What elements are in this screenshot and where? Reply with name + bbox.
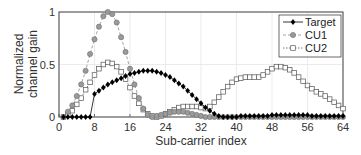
diamond-marker	[145, 68, 150, 74]
square-marker	[256, 75, 261, 80]
diamond-marker	[97, 88, 102, 94]
y-axis-label-line1: Normalized	[12, 34, 26, 95]
diamond-marker	[88, 114, 93, 120]
square-marker	[92, 73, 97, 78]
square-marker	[185, 104, 190, 109]
square-marker	[305, 83, 310, 88]
diamond-marker	[132, 70, 137, 76]
circle-marker	[87, 51, 92, 56]
circle-marker	[79, 82, 84, 87]
square-marker	[341, 106, 346, 111]
square-marker	[327, 97, 332, 102]
square-marker	[270, 66, 275, 71]
diamond-marker	[101, 85, 106, 91]
x-tick-label: 16	[124, 121, 136, 133]
square-marker	[261, 73, 266, 78]
y-tick-label: 1	[49, 6, 55, 18]
square-marker	[216, 95, 221, 100]
square-marker	[114, 64, 119, 69]
circle-marker	[92, 37, 97, 42]
circle-marker	[110, 12, 115, 17]
circle-marker	[74, 93, 79, 98]
square-marker	[225, 84, 230, 89]
diamond-marker	[181, 84, 186, 90]
diamond-marker	[70, 114, 75, 120]
circle-marker	[65, 109, 70, 114]
square-marker	[319, 92, 324, 97]
circle-marker	[290, 32, 295, 37]
circle-marker	[127, 66, 132, 71]
diamond-marker	[190, 92, 195, 98]
diamond-marker	[83, 114, 88, 120]
x-tick-label: 64	[337, 121, 349, 133]
circle-marker	[141, 106, 146, 111]
circle-marker	[70, 103, 75, 108]
square-marker	[274, 64, 279, 69]
y-tick-label: 0	[49, 111, 55, 123]
square-marker	[234, 77, 239, 82]
diamond-marker	[114, 77, 119, 83]
circle-marker	[123, 49, 128, 54]
diamond-marker	[194, 96, 199, 102]
square-marker	[83, 87, 88, 92]
square-marker	[314, 90, 319, 95]
legend-label: CU2	[305, 42, 327, 54]
square-marker	[190, 104, 195, 109]
diamond-marker	[172, 77, 177, 83]
diamond-marker	[150, 68, 155, 74]
square-marker	[181, 104, 186, 109]
square-marker	[252, 75, 257, 80]
x-tick-label: 0	[56, 121, 62, 133]
diamond-marker	[141, 68, 146, 74]
x-tick-label: 56	[301, 121, 313, 133]
square-marker	[332, 100, 337, 105]
square-marker	[310, 86, 315, 91]
x-tick-labels: 0816243240485664	[56, 121, 349, 133]
x-tick-label: 48	[266, 121, 278, 133]
square-marker	[336, 103, 341, 108]
diamond-marker	[79, 114, 84, 120]
diamond-marker	[185, 88, 190, 94]
circle-marker	[119, 35, 124, 40]
line-chart: 0816243240485664 00.51 Sub-carrier index…	[0, 0, 361, 155]
square-marker	[212, 100, 217, 105]
square-marker	[265, 70, 270, 75]
x-axis-label: Sub-carrier index	[155, 134, 246, 148]
square-marker	[97, 66, 102, 71]
x-tick-label: 40	[230, 121, 242, 133]
diamond-marker	[74, 114, 79, 120]
circle-marker	[114, 20, 119, 25]
diamond-marker	[159, 70, 164, 76]
square-marker	[243, 75, 248, 80]
square-marker	[128, 85, 133, 90]
square-marker	[194, 104, 199, 109]
circle-marker	[132, 82, 137, 87]
square-marker	[301, 79, 306, 84]
square-marker	[296, 75, 301, 80]
diamond-marker	[92, 91, 97, 97]
legend-label: Target	[305, 16, 336, 28]
diamond-marker	[177, 80, 182, 86]
legend: TargetCU1CU2	[279, 15, 341, 57]
x-tick-label: 32	[195, 121, 207, 133]
diamond-marker	[137, 69, 142, 75]
y-tick-labels: 00.51	[40, 6, 55, 123]
square-marker	[110, 61, 115, 66]
circle-marker	[96, 24, 101, 29]
diamond-marker	[154, 69, 159, 75]
square-marker	[291, 46, 296, 51]
legend-label: CU1	[305, 29, 327, 41]
square-marker	[323, 94, 328, 99]
circle-marker	[136, 96, 141, 101]
square-marker	[106, 60, 111, 65]
square-marker	[279, 64, 284, 69]
circle-marker	[83, 68, 88, 73]
square-marker	[239, 76, 244, 81]
diamond-marker	[168, 74, 173, 80]
diamond-marker	[163, 72, 168, 78]
square-marker	[283, 65, 288, 70]
square-marker	[119, 70, 124, 75]
y-axis-label-line2: channel gain	[26, 30, 40, 98]
diamond-marker	[110, 79, 115, 85]
diamond-marker	[106, 81, 111, 87]
